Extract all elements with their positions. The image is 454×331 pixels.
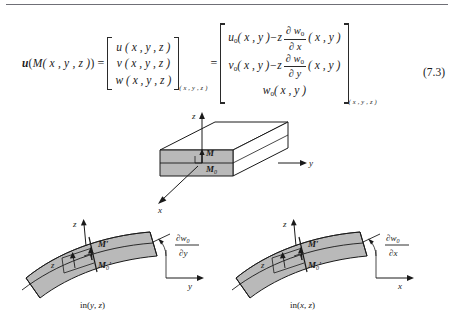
figure-page: u(M( x , y , z ))= u ( x , y , z ) v ( x…	[0, 0, 454, 331]
lhs-equals: =	[97, 56, 104, 70]
matrix-two-row-3: w0( x , y )	[228, 80, 340, 102]
row2-frac-num: ∂ w0	[284, 53, 306, 66]
axis-z-label: z	[191, 111, 196, 121]
row2-derivative: ∂ w0∂ y	[284, 53, 306, 80]
label-point-M0-prime-xz: M0′	[307, 260, 322, 271]
axis-z-label-yz: z	[72, 219, 77, 229]
equation-number: (7.3)	[423, 66, 445, 78]
matrix-two-group: u0( x , y )−z∂ w0∂ x( x , y ) v0( x , y …	[220, 23, 377, 103]
matrix-two: u0( x , y )−z∂ w0∂ x( x , y ) v0( x , y …	[220, 23, 348, 103]
axis-y-label-yz: y	[187, 281, 192, 291]
matrix-one-column: u ( x , y , z ) v ( x , y , z ) w ( x , …	[112, 37, 174, 90]
lhs-coords: ( x , y , z )	[42, 57, 90, 69]
slope-angle-arrowhead-xz	[368, 239, 374, 245]
row1-frac-num-sub: 0	[301, 30, 305, 38]
row1-frac-num-partial: ∂ w	[286, 25, 301, 36]
slope-num-xz: ∂w0	[386, 233, 399, 244]
matrix-one: u ( x , y , z ) v ( x , y , z ) w ( x , …	[107, 37, 179, 90]
row3-args: ( x , y )	[274, 84, 306, 96]
figure-undeformed-plate-3d: z y x M M0	[140, 110, 320, 220]
matrix-two-row-2: v0( x , y )−z∂ w0∂ y( x , y )	[228, 53, 340, 80]
plate-body-yz	[26, 232, 157, 298]
axis-z-line-xz	[294, 224, 296, 246]
slope-den-xz: ∂x	[389, 248, 397, 258]
figure-deformed-plate-yz: z y ∂w0 ∂y z	[18, 216, 233, 311]
axis-z-line-yz	[84, 224, 86, 246]
axis-z-label-xz: z	[282, 219, 287, 229]
caption-xz-suffix: )	[312, 300, 315, 310]
figure-deformed-plate-xz: z x ∂w0 ∂x z M′ M0′ in(x	[228, 216, 443, 311]
caption-yz: in(y, z)	[80, 300, 105, 310]
axis-x-arrowhead-xz	[407, 275, 414, 281]
row1-minus-z: −z	[270, 32, 282, 44]
slope-num-sub-yz: 0	[186, 238, 189, 244]
label-point-M-prime-xz: M′	[307, 239, 319, 249]
row1-derivative: ∂ w0∂ x	[284, 25, 306, 52]
point-M-symbol: M	[33, 57, 43, 69]
axis-y-label: y	[308, 158, 313, 168]
matrix-one-subscript: ( x , y , z )	[179, 84, 207, 91]
row2-args: ( x , y )	[237, 59, 269, 71]
matrix-one-row-3: w ( x , y , z )	[115, 72, 171, 88]
axis-z-arrowhead-yz	[81, 219, 87, 226]
vector-u-symbol: u	[22, 57, 29, 69]
row1-args: ( x , y )	[238, 32, 270, 44]
matrix-two-row-1: u0( x , y )−z∂ w0∂ x( x , y )	[228, 25, 340, 52]
slope-angle-arrowhead-yz	[158, 239, 164, 245]
thickness-label-yz: z	[50, 260, 55, 270]
plate-body-xz	[236, 232, 367, 298]
equation-7-3: u(M( x , y , z ))= u ( x , y , z ) v ( x…	[0, 16, 454, 111]
caption-yz-prefix: in(	[80, 300, 90, 310]
axis-y-arrowhead-yz	[197, 275, 204, 281]
row1-trail: ( x , y )	[308, 32, 340, 44]
equation-second-equals: =	[211, 56, 218, 71]
label-point-M0-subscript: 0	[214, 169, 217, 175]
label-point-M: M	[205, 148, 215, 158]
label-point-M-prime-yz: M′	[97, 239, 109, 249]
thickness-label-xz: z	[260, 260, 265, 270]
top-horizontal-rule	[6, 4, 448, 5]
matrix-one-group: u ( x , y , z ) v ( x , y , z ) w ( x , …	[107, 37, 207, 90]
matrix-one-left-bracket	[107, 37, 112, 90]
axis-z-arrowhead-xz	[291, 219, 297, 226]
caption-yz-suffix: )	[102, 300, 105, 310]
slope-label-xz: ∂w0 ∂x	[385, 233, 409, 258]
row2-trail: ( x , y )	[308, 59, 340, 71]
matrix-two-left-bracket	[220, 23, 225, 103]
axis-x-label: x	[157, 205, 162, 215]
row2-frac-den: ∂ y	[284, 68, 306, 80]
lhs-close-paren: )	[90, 57, 94, 69]
caption-xz-prefix: in(	[290, 300, 300, 310]
matrix-one-row-2: v ( x , y , z )	[115, 55, 171, 71]
axis-z-arrowhead	[199, 112, 205, 119]
slope-num-yz: ∂w0	[176, 233, 189, 244]
axis-x-label-xz: x	[397, 281, 402, 291]
equation-left-hand-side: u(M( x , y , z ))=	[22, 56, 107, 71]
slope-den-yz: ∂y	[179, 248, 187, 258]
slope-label-yz: ∂w0 ∂y	[175, 233, 199, 258]
slope-num-sub-xz: 0	[396, 238, 399, 244]
matrix-one-row-1: u ( x , y , z )	[115, 39, 171, 55]
matrix-two-right-bracket	[344, 23, 349, 103]
matrix-one-right-bracket	[174, 37, 179, 90]
row2-frac-num-partial: ∂ w	[286, 53, 301, 64]
row2-minus-z: −z	[269, 59, 281, 71]
axis-y-arrowhead	[300, 160, 307, 166]
label-point-M0-prime-yz: M0′	[97, 260, 112, 271]
row1-frac-num: ∂ w0	[284, 25, 306, 38]
row1-frac-den: ∂ x	[284, 41, 306, 53]
matrix-two-column: u0( x , y )−z∂ w0∂ x( x , y ) v0( x , y …	[225, 23, 343, 103]
row2-frac-num-sub: 0	[301, 58, 305, 66]
matrix-two-subscript: ( x , y , z )	[349, 98, 377, 105]
caption-xz: in(x, z)	[290, 300, 315, 310]
